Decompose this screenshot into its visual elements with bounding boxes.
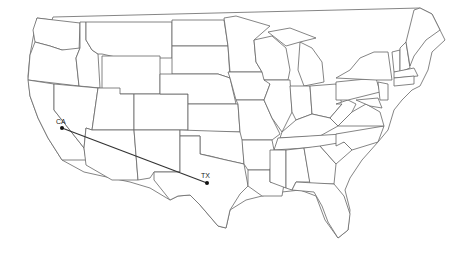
state-connecticut-ri (394, 76, 414, 86)
state-south-dakota (172, 46, 230, 78)
state-new-jersey (378, 82, 388, 100)
tx-marker[interactable] (205, 181, 209, 185)
ca-label: CA (56, 118, 66, 125)
state-oregon (28, 42, 80, 86)
state-arkansas (242, 140, 274, 170)
us-map: CA TX (0, 0, 462, 258)
state-kansas (188, 104, 240, 132)
tx-label: TX (201, 172, 210, 179)
state-mississippi (270, 150, 286, 188)
state-utah (92, 88, 134, 130)
states-layer: CA TX (0, 0, 462, 258)
ca-marker[interactable] (60, 126, 64, 130)
state-montana (86, 22, 172, 58)
state-colorado (134, 94, 188, 130)
state-north-dakota (172, 20, 228, 46)
